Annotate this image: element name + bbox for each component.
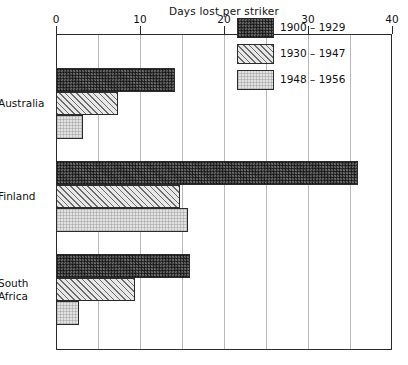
category-label-australia: Australia (0, 97, 52, 110)
gridline-35 (350, 35, 351, 349)
bar-south-africa-1930-1947 (56, 278, 135, 302)
category-label-finland: Finland (0, 190, 52, 203)
bar-south-africa-1948-1956 (56, 301, 79, 325)
bar-australia-1930-1947 (56, 92, 118, 116)
legend-label-1: 1930 – 1947 (280, 47, 345, 59)
legend: 1900 – 19291930 – 19471948 – 1956 (237, 16, 329, 94)
gridline-20 (224, 35, 225, 349)
category-label-south-africa: South Africa (0, 277, 52, 302)
legend-swatch-0 (237, 18, 274, 38)
bar-australia-1948-1956 (56, 115, 83, 139)
gridline-15 (182, 35, 183, 349)
x-tick-20 (224, 26, 225, 34)
bar-finland-1930-1947 (56, 185, 180, 209)
x-tick-label-0: 0 (53, 13, 60, 25)
legend-label-0: 1900 – 1929 (280, 21, 345, 33)
legend-item-1900-1929[interactable]: 1900 – 1929 (237, 16, 329, 42)
x-tick-10 (140, 26, 141, 34)
x-tick-label-20: 20 (217, 13, 230, 25)
bar-south-africa-1900-1929 (56, 254, 190, 278)
legend-item-1930-1947[interactable]: 1930 – 1947 (237, 42, 329, 68)
legend-label-2: 1948 – 1956 (280, 73, 345, 85)
x-tick-label-40: 40 (385, 13, 398, 25)
legend-swatch-1 (237, 44, 274, 64)
x-tick-40 (392, 26, 393, 34)
x-tick-0 (56, 26, 57, 34)
bar-finland-1948-1956 (56, 208, 188, 232)
legend-item-1948-1956[interactable]: 1948 – 1956 (237, 68, 329, 94)
x-tick-label-10: 10 (133, 13, 146, 25)
bar-australia-1900-1929 (56, 68, 175, 92)
legend-swatch-2 (237, 70, 274, 90)
bar-chart: Days lost per striker 010203040 Australi… (0, 0, 408, 365)
bar-finland-1900-1929 (56, 161, 358, 185)
